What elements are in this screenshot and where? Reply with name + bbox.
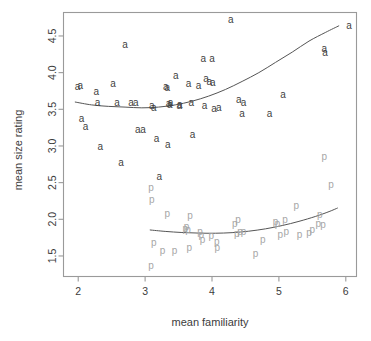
data-point-p: p	[151, 237, 157, 248]
x-axis-label: mean familiarity	[171, 316, 249, 328]
x-tick-label: 6	[343, 285, 349, 297]
data-point-a: a	[118, 157, 124, 168]
data-point-a: a	[167, 99, 173, 110]
data-point-p: p	[200, 234, 206, 245]
data-point-a: a	[202, 100, 208, 111]
data-point-p: p	[241, 226, 247, 237]
data-points-series-a: aaaaaaaaaaaaaaaaaaaaaaaaaaaaaaaaaaaaaaaa…	[75, 14, 353, 183]
x-axis-tick-labels: 23456	[75, 285, 349, 297]
data-point-p: p	[282, 214, 288, 225]
data-point-a: a	[267, 108, 273, 119]
data-point-a: a	[93, 86, 99, 97]
a-fit	[75, 26, 339, 108]
data-point-a: a	[186, 78, 192, 89]
data-point-p: p	[160, 245, 166, 256]
data-point-a: a	[154, 133, 160, 144]
data-point-a: a	[151, 102, 157, 113]
y-axis-tick-marks	[59, 36, 64, 256]
plot-canvas: 1.52.02.53.03.54.04.5 23456 pppppppppppp…	[0, 0, 371, 341]
data-point-a: a	[346, 20, 352, 31]
data-point-p: p	[186, 242, 192, 253]
y-axis-label: mean size rating	[12, 110, 24, 191]
data-point-a: a	[165, 139, 171, 150]
data-point-a: a	[156, 171, 162, 182]
data-point-a: a	[77, 80, 83, 91]
fit-curves-layer	[75, 26, 339, 234]
data-point-a: a	[190, 129, 196, 140]
data-point-a: a	[201, 53, 207, 64]
y-tick-label: 4.5	[47, 29, 59, 44]
data-point-a: a	[95, 97, 101, 108]
data-point-a: a	[83, 121, 89, 132]
data-point-p: p	[215, 242, 221, 253]
x-tick-label: 4	[209, 285, 215, 297]
data-point-p: p	[297, 229, 303, 240]
y-tick-label: 1.5	[47, 249, 59, 264]
scatter-plot-figure: 1.52.02.53.03.54.04.5 23456 pppppppppppp…	[0, 0, 371, 341]
data-point-a: a	[177, 99, 183, 110]
y-tick-label: 2.0	[47, 212, 59, 227]
y-axis-tick-labels: 1.52.02.53.03.54.04.5	[47, 29, 59, 264]
data-point-a: a	[164, 82, 170, 93]
data-point-a: a	[122, 39, 128, 50]
y-tick-label: 2.5	[47, 175, 59, 190]
data-point-p: p	[149, 194, 155, 205]
data-point-a: a	[188, 97, 194, 108]
data-point-p: p	[294, 200, 300, 211]
data-point-p: p	[235, 214, 241, 225]
data-point-a: a	[239, 108, 245, 119]
data-point-p: p	[184, 221, 190, 232]
data-point-a: a	[133, 97, 139, 108]
data-point-a: a	[210, 77, 216, 88]
data-point-a: a	[280, 89, 286, 100]
x-tick-label: 5	[276, 285, 282, 297]
data-point-a: a	[196, 80, 202, 91]
data-point-p: p	[275, 218, 281, 229]
y-tick-label: 3.0	[47, 139, 59, 154]
data-point-a: a	[140, 124, 146, 135]
data-point-a: a	[114, 97, 120, 108]
data-point-a: a	[322, 47, 328, 58]
data-point-a: a	[173, 70, 179, 81]
data-point-p: p	[164, 208, 170, 219]
y-tick-label: 4.0	[47, 65, 59, 80]
x-axis-tick-marks	[78, 277, 346, 282]
data-point-p: p	[187, 210, 193, 221]
data-point-a: a	[209, 53, 215, 64]
data-point-p: p	[322, 151, 328, 162]
data-point-p: p	[328, 179, 334, 190]
data-point-p: p	[148, 182, 154, 193]
y-tick-label: 3.5	[47, 102, 59, 117]
data-point-p: p	[260, 234, 266, 245]
data-point-a: a	[241, 97, 247, 108]
x-tick-label: 3	[142, 285, 148, 297]
data-point-a: a	[216, 102, 222, 113]
x-tick-label: 2	[75, 285, 81, 297]
data-point-p: p	[283, 226, 289, 237]
data-point-p: p	[320, 219, 326, 230]
data-point-p: p	[148, 260, 154, 271]
data-point-a: a	[98, 141, 104, 152]
data-points-series-p: ppppppppppppppppppppppppppppppppppppppp	[148, 151, 334, 271]
data-point-a: a	[228, 14, 234, 25]
data-point-p: p	[172, 245, 178, 256]
data-point-a: a	[110, 78, 116, 89]
data-point-p: p	[253, 248, 259, 259]
